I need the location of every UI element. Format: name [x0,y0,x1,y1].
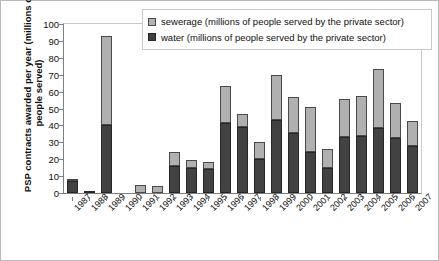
y-tick-label: 40 [29,120,59,131]
legend-label-water: water (millions of people served by the … [161,32,386,43]
x-label-slot: 1997 [234,197,251,243]
x-label-slot: 2007 [405,197,422,243]
x-label-slot: 2001 [302,197,319,243]
y-tick-mark [59,75,63,76]
x-tick-mark [396,197,397,201]
y-tick-mark [59,142,63,143]
bar-slot [81,24,98,193]
bar-segment-sewerage [390,103,400,138]
x-tick-mark [89,197,90,201]
bar-segment-sewerage [322,149,332,168]
stacked-bar[interactable] [339,99,349,193]
bar-segment-sewerage [101,36,111,125]
stacked-bar[interactable] [407,121,417,193]
x-tick-mark [208,197,209,201]
y-tick-label: 80 [29,52,59,63]
x-label-slot: 1991 [131,197,148,243]
water-swatch-icon [148,33,156,41]
legend-item-sewerage: sewerage (millions of people served by t… [148,16,426,27]
bar-segment-water [203,169,213,194]
x-tick-mark [362,197,363,201]
y-tick-mark [59,92,63,93]
stacked-bar[interactable] [67,179,77,193]
y-tick-mark [59,58,63,59]
stacked-bar[interactable] [288,97,298,193]
y-tick-mark [59,109,63,110]
stacked-bar[interactable] [101,36,111,193]
x-label-slot: 1988 [80,197,97,243]
x-label-slot: 1987 [63,197,80,243]
x-tick-mark [379,197,380,201]
x-label-slot: 2006 [388,197,405,243]
x-label-slot: 2003 [337,197,354,243]
bar-segment-water [356,136,366,193]
bar-segment-sewerage [237,114,247,128]
bar-slot [115,24,132,193]
bar-segment-water [271,120,281,194]
bar-segment-sewerage [169,152,179,166]
stacked-bar[interactable] [203,162,213,193]
stacked-bar[interactable] [322,149,332,193]
legend-label-sewerage: sewerage (millions of people served by t… [161,16,404,27]
bar-segment-water [186,168,196,193]
y-tick-label: 70 [29,69,59,80]
x-label-slot: 1996 [217,197,234,243]
x-tick-mark [123,197,124,201]
bar-segment-sewerage [220,86,230,123]
y-tick-label: 0 [29,188,59,199]
x-axis-labels: 1987198819891990199119921993199419951996… [63,197,422,243]
x-tick-mark [106,197,107,201]
y-tick-label: 50 [29,103,59,114]
x-label-slot: 1993 [166,197,183,243]
stacked-bar[interactable] [390,103,400,193]
bar-segment-water [67,181,77,193]
y-tick-label: 10 [29,171,59,182]
x-label-slot: 1989 [97,197,114,243]
y-tick-label: 90 [29,35,59,46]
bar-segment-sewerage [305,107,315,152]
bar-segment-water [101,125,111,193]
stacked-bar[interactable] [254,142,264,193]
x-tick-mark [157,197,158,201]
stacked-bar[interactable] [356,96,366,193]
x-tick-mark [72,197,73,201]
x-label-slot: 2005 [371,197,388,243]
bar-segment-sewerage [356,96,366,136]
y-tick-mark [59,125,63,126]
bar-segment-water [339,137,349,193]
bar-segment-water [220,123,230,193]
x-tick-mark [191,197,192,201]
bar-segment-water [390,138,400,193]
x-label-slot: 2002 [319,197,336,243]
bar-segment-sewerage [339,99,349,137]
chart-legend: sewerage (millions of people served by t… [142,9,432,50]
stacked-bar[interactable] [373,69,383,193]
bar-segment-water [169,166,179,193]
stacked-bar[interactable] [169,152,179,193]
bar-segment-sewerage [271,75,281,120]
x-label-slot: 1992 [148,197,165,243]
bar-segment-water [407,146,417,193]
x-label-slot: 2004 [354,197,371,243]
bar-segment-sewerage [254,142,264,159]
x-tick-mark [260,197,261,201]
y-tick-label: 20 [29,154,59,165]
bar-slot [64,24,81,193]
stacked-bar[interactable] [271,75,281,193]
x-tick-mark [294,197,295,201]
x-label-slot: 1994 [183,197,200,243]
y-tick-mark [59,193,63,194]
stacked-bar[interactable] [220,86,230,193]
stacked-bar[interactable] [305,107,315,193]
x-tick-mark [225,197,226,201]
stacked-bar[interactable] [237,114,247,193]
y-tick-label: 100 [29,19,59,30]
chart-frame: PSP contracts awarded per year (millions… [0,0,439,261]
sewerage-swatch-icon [148,18,156,26]
x-label-slot: 1999 [268,197,285,243]
x-tick-mark [140,197,141,201]
stacked-bar[interactable] [186,160,196,193]
y-tick-label: 60 [29,86,59,97]
bar-slot [98,24,115,193]
bar-segment-water [288,133,298,193]
